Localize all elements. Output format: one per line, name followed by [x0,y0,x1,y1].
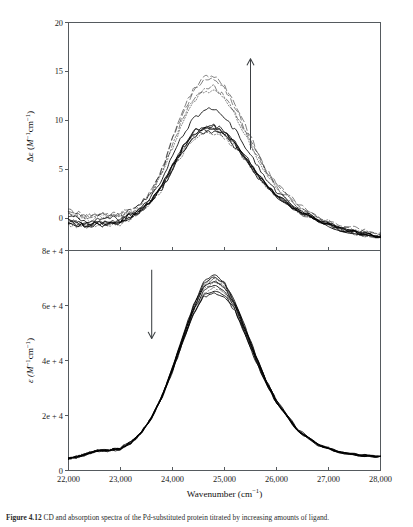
y-tick-label: 8e + 4 [42,247,64,256]
y-tick-label: 4e + 4 [42,357,64,366]
caption-text: CD and absorption spectra of the Pd-subs… [43,513,329,522]
spectrum-curve [69,131,381,238]
x-tick-label: 24,000 [161,475,184,484]
y-tick-label: 2e + 4 [42,412,64,421]
y-tick-label: 10 [55,116,63,125]
spectrum-curve [69,108,381,238]
spectrum-curve [69,277,381,458]
caption-label: Figure 4.12 [6,513,42,522]
spectrum-curve [69,124,381,237]
bottom-panel-absorption-spectrum: 02e + 44e + 46e + 48e + 4 [42,247,381,476]
spectrum-curve [69,282,381,458]
spectrum-curve [69,128,381,237]
x-tick-label: 28,000 [369,475,392,484]
spectrum-curve [69,285,381,458]
x-tick-label: 23,000 [109,475,132,484]
x-tick-label: 26,000 [265,475,288,484]
y-tick-label: 20 [55,19,63,28]
y-tick-label: 0 [59,214,63,223]
figure-caption: Figure 4.12 CD and absorption spectra of… [6,513,407,527]
spectrum-curve [69,127,381,237]
spectrum-curve [69,282,381,459]
y-tick-label: 6e + 4 [42,302,64,311]
spectrum-curve [69,85,381,235]
y-axis-title-delta-epsilon: Δε (M−1cm−1) [24,111,35,162]
spectrum-curve [69,125,381,237]
top-panel-cd-spectrum: 05101520 [55,19,381,251]
spectrum-curve [69,128,381,238]
y-tick-label: 15 [55,67,63,76]
x-tick-label: 27,000 [317,475,340,484]
spectrum-curve [69,278,381,458]
spectrum-curve [69,278,381,458]
spectrum-curve [69,75,381,233]
spectrum-curve [69,287,381,458]
spectrum-curve [69,78,381,236]
spectrum-curve [69,275,381,458]
x-tick-label: 22,000 [57,475,80,484]
figure-container: 05101520 02e + 44e + 46e + 48e + 4 22,00… [0,0,413,527]
x-tick-label: 25,000 [213,475,236,484]
spectrum-curve [69,293,381,460]
spectrum-curve [69,291,381,459]
y-tick-label: 5 [59,165,63,174]
spectrum-curve [69,90,381,236]
spectra-figure: 05101520 02e + 44e + 46e + 48e + 4 22,00… [0,0,413,527]
axis-labels-group: 22,00023,00024,00025,00026,00027,00028,0… [24,111,392,499]
x-axis-title: Wavenumber (cm−1) [187,487,262,498]
y-axis-title-epsilon: ε (M−1cm−1) [24,338,35,383]
